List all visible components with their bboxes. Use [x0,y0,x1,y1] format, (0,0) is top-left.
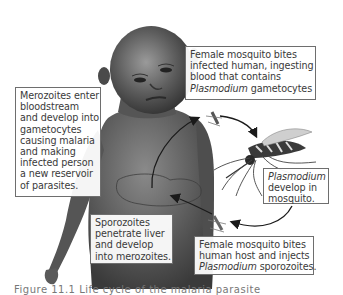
label-line: blood that contains [190,71,311,82]
label-line: Merozoites enter [20,90,96,101]
label-line: and making [20,146,96,157]
label-line: and develop [95,239,168,250]
label-line: Female mosquito bites [199,239,309,250]
italic-term: Plasmodium [190,83,248,94]
label-line: causing malaria [20,135,96,146]
label-line: Plasmodium sporozoites. [199,261,309,272]
label-mosquito-bites-human-host: Female mosquito bites human host and inj… [194,236,314,275]
label-line: develop in [268,182,324,193]
label-text: sporozoites. [257,261,317,272]
label-line: Female mosquito bites [190,49,311,60]
label-line: Plasmodium gametocytes [190,83,311,94]
figure-caption: Figure 11.1 Life cycle of the malaria pa… [14,284,261,295]
label-merozoites-enter-bloodstream: Merozoites enter bloodstream and develop… [15,87,101,197]
label-line: into merozoites. [95,251,168,262]
label-text: gametocytes [248,83,312,94]
label-line: infected human, ingesting [190,60,311,71]
label-line: bloodstream [20,101,96,112]
label-line: Plasmodium [268,171,324,182]
label-line: and develop into [20,112,96,123]
label-plasmodium-develop-in-mosquito: Plasmodium develop in mosquito. [263,168,329,204]
label-line: infected person [20,157,96,168]
italic-term: Plasmodium [268,171,326,182]
label-line: human host and injects [199,250,309,261]
label-line: a new reservoir [20,168,96,179]
italic-term: Plasmodium [199,261,257,272]
label-mosquito-bites-infected-human: Female mosquito bites infected human, in… [185,46,316,100]
mosquito-on-shoulder [206,112,222,126]
label-line: Sporozoites [95,217,168,228]
label-line: of parasites. [20,180,96,191]
label-line: penetrate liver [95,228,168,239]
label-line: mosquito. [268,193,324,204]
label-sporozoites-penetrate-liver: Sporozoites penetrate liver and develop … [90,214,173,264]
label-line: gametocytes [20,124,96,135]
